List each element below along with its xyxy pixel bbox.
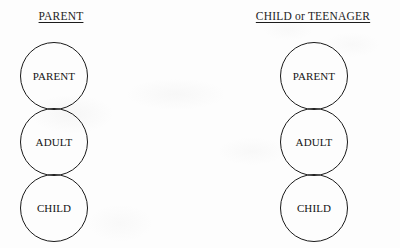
column-child-or-teenager: CHILD or TEENAGER PARENT ADULT CHILD [200, 0, 400, 248]
column-parent: PARENT PARENT ADULT CHILD [0, 0, 200, 248]
ego-state-circle-parent: PARENT [280, 42, 348, 110]
ego-state-circle-adult: ADULT [280, 108, 348, 176]
column-header-child-or-teenager: CHILD or TEENAGER [256, 10, 370, 22]
ego-state-label: ADULT [36, 137, 73, 148]
column-header-parent: PARENT [39, 10, 84, 22]
ego-state-circle-child: CHILD [280, 174, 348, 242]
diagram-canvas: PARENT PARENT ADULT CHILD CHILD or TEENA… [0, 0, 400, 248]
ego-state-circle-parent: PARENT [20, 42, 88, 110]
ego-state-label: ADULT [296, 137, 333, 148]
ego-state-label: CHILD [37, 203, 71, 214]
ego-state-label: PARENT [293, 71, 335, 82]
ego-state-circle-adult: ADULT [20, 108, 88, 176]
ego-state-label: PARENT [33, 71, 75, 82]
ego-state-circle-child: CHILD [20, 174, 88, 242]
ego-state-label: CHILD [297, 203, 331, 214]
